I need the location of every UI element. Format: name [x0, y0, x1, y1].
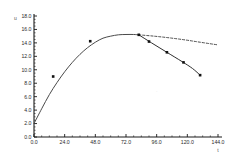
y-tick-label: 18.0 — [21, 13, 31, 19]
data-point-marker — [52, 75, 55, 78]
y-tick-label: 14.0 — [21, 40, 31, 46]
data-point-marker — [182, 61, 185, 64]
y-tick-label: 6.0 — [24, 94, 31, 100]
x-tick-label: 0.0 — [30, 139, 37, 145]
data-point-marker — [166, 51, 169, 54]
x-tick-label: 48.0 — [90, 139, 100, 145]
faint-mark: · — [156, 89, 158, 94]
x-axis-label: t — [217, 147, 219, 153]
annotations-layer: · — [156, 89, 158, 94]
y-axis-ticks: 0.02.04.06.08.010.012.014.016.018.0 — [21, 13, 37, 140]
chart-canvas: 0.02.04.06.08.010.012.014.016.018.0 0.02… — [0, 0, 238, 159]
x-tick-label: 72.0 — [121, 139, 131, 145]
x-tick-label: 144.0 — [212, 139, 225, 145]
data-point-markers — [52, 34, 202, 78]
line-chart: 0.02.04.06.08.010.012.014.016.018.0 0.02… — [0, 0, 238, 159]
y-tick-label: 12.0 — [21, 53, 31, 59]
y-tick-label: 4.0 — [24, 107, 31, 113]
data-point-marker — [137, 34, 140, 37]
series-main-curve — [34, 34, 139, 123]
series-dashed-branch — [139, 35, 218, 45]
data-point-marker — [199, 74, 202, 77]
y-axis-label: u — [14, 15, 17, 21]
x-tick-label: 24.0 — [60, 139, 70, 145]
data-point-marker — [148, 40, 151, 43]
data-point-marker — [89, 40, 92, 43]
y-tick-label: 2.0 — [24, 120, 31, 126]
x-tick-label: 120.0 — [181, 139, 194, 145]
x-tick-label: 96.0 — [152, 139, 162, 145]
data-series-layer — [34, 34, 218, 123]
x-axis-ticks: 0.024.048.072.096.0120.0144.0 — [30, 134, 224, 145]
y-tick-label: 10.0 — [21, 67, 31, 73]
y-tick-label: 8.0 — [24, 80, 31, 86]
y-tick-label: 16.0 — [21, 26, 31, 32]
